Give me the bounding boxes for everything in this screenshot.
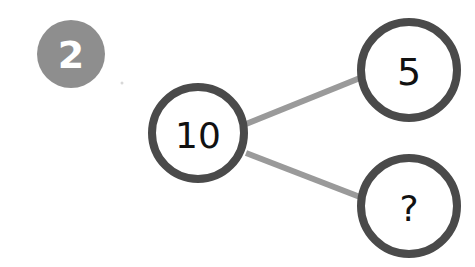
whole-node: 10 xyxy=(152,87,244,179)
problem-number: 2 xyxy=(58,33,84,77)
speck xyxy=(121,82,124,85)
number-bond-diagram: 2 10 5 ? xyxy=(0,0,475,267)
connector-whole-to-part-1 xyxy=(246,78,360,124)
part-2-unknown-value: ? xyxy=(399,188,418,229)
part-1-value: 5 xyxy=(397,50,421,94)
whole-value: 10 xyxy=(175,115,221,156)
part-node-1: 5 xyxy=(361,22,457,118)
connector-whole-to-part-2 xyxy=(246,153,360,197)
problem-number-badge: 2 xyxy=(37,20,105,88)
part-node-2: ? xyxy=(361,158,457,254)
